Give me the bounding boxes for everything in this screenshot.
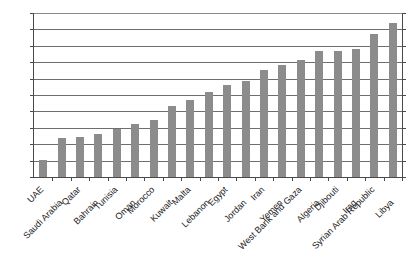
y-tick-mark-right <box>402 111 406 112</box>
gridline <box>34 128 402 129</box>
y-tick-mark <box>30 29 34 30</box>
y-tick-mark <box>30 128 34 129</box>
y-tick-mark <box>30 161 34 162</box>
bar <box>168 106 176 177</box>
gridline <box>34 95 402 96</box>
gridline <box>34 144 402 145</box>
bar <box>113 129 121 177</box>
bar <box>39 160 47 177</box>
y-tick-mark <box>30 111 34 112</box>
x-axis-category-label: Syrian Arab Republic <box>228 184 376 269</box>
y-tick-mark-right <box>402 177 406 178</box>
y-tick-mark <box>30 144 34 145</box>
x-axis-category-label: Morocco <box>8 184 156 269</box>
bar <box>205 92 213 177</box>
x-tick-mark <box>347 177 348 181</box>
gridline <box>34 79 402 80</box>
bar <box>389 23 397 177</box>
x-tick-mark <box>126 177 127 181</box>
y-tick-mark-right <box>402 13 406 14</box>
x-tick-mark <box>292 177 293 181</box>
x-axis-category-label: Algeria <box>173 197 321 269</box>
y-tick-mark <box>30 13 34 14</box>
y-tick-mark-right <box>402 46 406 47</box>
y-tick-mark <box>30 95 34 96</box>
bar <box>76 137 84 177</box>
bar <box>131 124 139 177</box>
x-tick-mark <box>236 177 237 181</box>
gridline <box>34 29 402 30</box>
y-tick-mark-right <box>402 128 406 129</box>
bar <box>150 120 158 177</box>
bar <box>278 65 286 177</box>
x-axis-category-label: Iraq <box>210 197 358 269</box>
gridline <box>34 62 402 63</box>
y-tick-mark <box>30 177 34 178</box>
x-tick-mark <box>52 177 53 181</box>
x-tick-mark <box>310 177 311 181</box>
bar <box>186 100 194 177</box>
x-axis-category-label: Qatar <box>0 184 83 269</box>
bar <box>260 70 268 177</box>
x-axis-category-label: Saudi Arabia <box>0 197 64 269</box>
gridline <box>34 111 402 112</box>
x-tick-mark <box>144 177 145 181</box>
y-tick-mark-right <box>402 95 406 96</box>
x-axis-category-label: Jordan <box>100 197 248 269</box>
y-tick-mark-right <box>402 161 406 162</box>
x-tick-mark <box>365 177 366 181</box>
x-tick-mark <box>163 177 164 181</box>
bar <box>352 49 360 177</box>
y-tick-mark-right <box>402 62 406 63</box>
x-axis-category-label: Malta <box>44 184 192 269</box>
x-axis-category-label: Iran <box>118 184 266 269</box>
x-axis-category-label: Kuwait <box>26 197 174 269</box>
y-tick-mark <box>30 79 34 80</box>
bar <box>370 34 378 178</box>
gridline <box>34 13 402 14</box>
x-axis-category-label: Bahrain <box>0 197 101 269</box>
x-axis-category-label: Tunisia <box>0 184 119 269</box>
x-tick-mark <box>273 177 274 181</box>
gridline <box>34 46 402 47</box>
x-axis-category-label: Libya <box>247 197 395 269</box>
bar-chart: 020406080100120140160180200 UAESaudi Ara… <box>0 0 413 269</box>
gridline <box>34 161 402 162</box>
y-tick-mark-right <box>402 144 406 145</box>
bar <box>334 51 342 177</box>
y-tick-mark-right <box>402 79 406 80</box>
x-tick-mark <box>328 177 329 181</box>
x-axis-category-label: Oman <box>0 197 138 269</box>
x-tick-mark <box>108 177 109 181</box>
x-axis-category-label: Yemen <box>136 197 284 269</box>
bar <box>297 60 305 177</box>
bar <box>94 134 102 177</box>
x-tick-mark <box>71 177 72 181</box>
bar <box>58 138 66 177</box>
x-axis-category-label: Lebanon <box>63 197 211 269</box>
bar <box>242 81 250 177</box>
x-tick-mark <box>255 177 256 181</box>
x-tick-mark <box>384 177 385 181</box>
x-axis-category-label: West Bank and Gaza <box>155 184 303 269</box>
y-tick-mark <box>30 46 34 47</box>
x-tick-mark <box>200 177 201 181</box>
x-axis-category-label: UAE <box>0 184 46 269</box>
y-tick-mark-right <box>402 29 406 30</box>
bar <box>315 51 323 177</box>
x-tick-mark <box>181 177 182 181</box>
x-tick-mark <box>89 177 90 181</box>
y-tick-mark <box>30 62 34 63</box>
x-tick-mark <box>218 177 219 181</box>
x-axis-category-label: Egypt <box>81 184 229 269</box>
x-axis-category-label: Djibouti <box>192 184 340 269</box>
plot-area <box>33 13 403 178</box>
bar <box>223 85 231 177</box>
